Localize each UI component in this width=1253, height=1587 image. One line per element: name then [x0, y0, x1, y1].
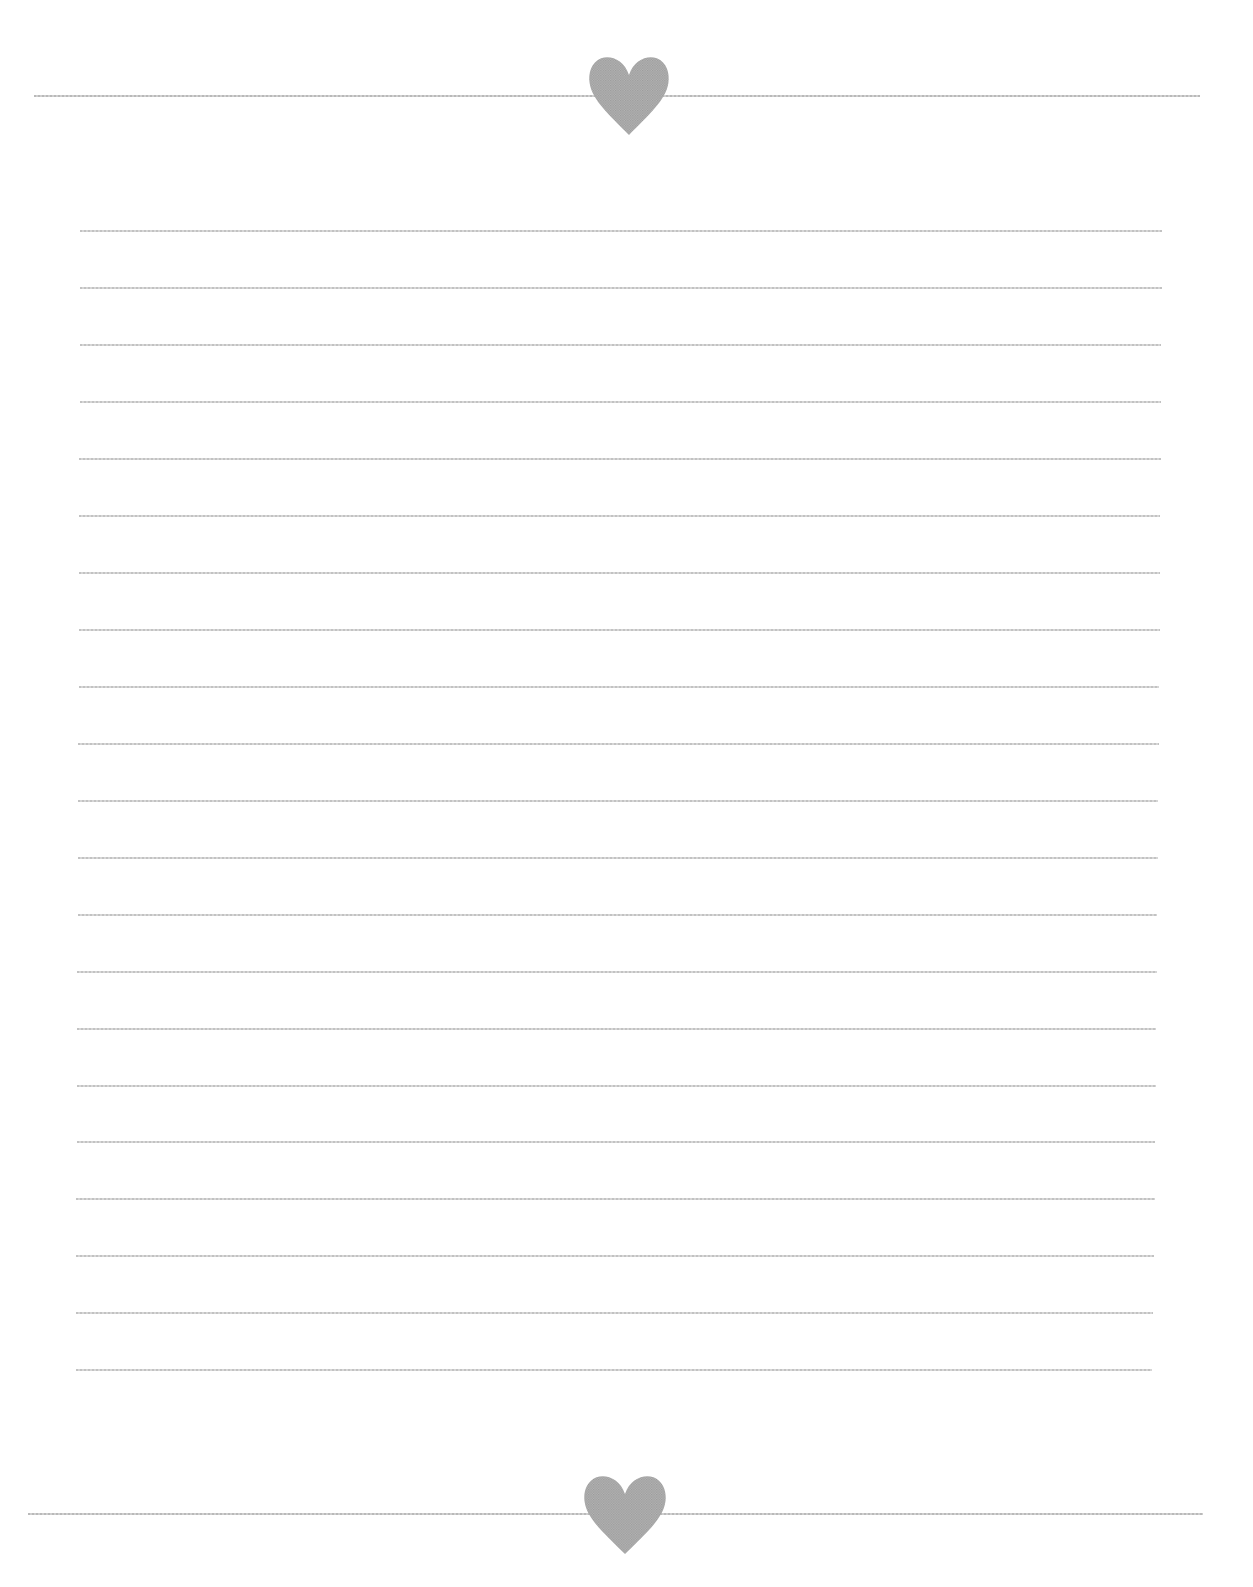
ruled-line: [77, 1085, 1156, 1087]
ruled-line: [79, 686, 1159, 688]
ruled-line: [76, 1198, 1155, 1200]
ruled-line: [80, 287, 1162, 289]
ruled-line: [77, 1141, 1155, 1143]
ruled-line: [80, 401, 1161, 403]
ruled-line: [78, 914, 1157, 916]
heart-icon: [583, 1474, 667, 1554]
ruled-line: [77, 1028, 1156, 1030]
ruled-line: [77, 971, 1157, 973]
ruled-line: [79, 458, 1161, 460]
writing-area: [0, 0, 1253, 1587]
ruled-line: [78, 743, 1159, 745]
ruled-line: [79, 515, 1160, 517]
ruled-line: [80, 230, 1162, 232]
ruled-line: [80, 344, 1161, 346]
lined-paper-page: [0, 0, 1253, 1587]
ruled-line: [79, 629, 1160, 631]
ruled-line: [79, 572, 1160, 574]
ruled-line: [76, 1255, 1154, 1257]
ruled-line: [76, 1369, 1152, 1371]
heart-shape: [583, 1474, 667, 1554]
ruled-line: [78, 857, 1158, 859]
ruled-line: [76, 1312, 1153, 1314]
ruled-line: [78, 800, 1158, 802]
